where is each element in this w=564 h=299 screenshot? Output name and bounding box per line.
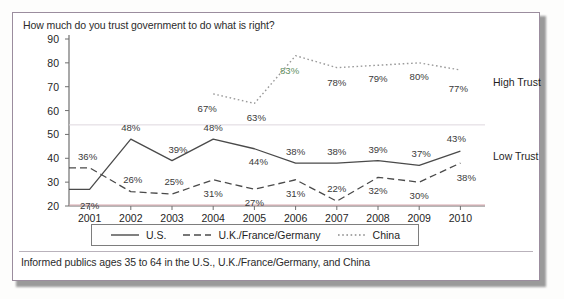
x-axis-tick-label: 2005 <box>234 212 274 224</box>
data-point-label: 44% <box>249 155 268 166</box>
data-point-label: 22% <box>327 183 346 194</box>
y-axis-tick-label: 40 <box>37 152 59 164</box>
data-point-label: 39% <box>368 143 387 154</box>
data-point-label: 25% <box>164 176 183 187</box>
y-axis-tick-label: 50 <box>37 128 59 140</box>
legend-item-label: China <box>373 229 400 241</box>
low-trust-annotation: Low Trust <box>493 150 539 162</box>
data-point-label: 78% <box>327 76 346 87</box>
x-axis-tick-label: 2001 <box>70 212 110 224</box>
data-point-label: 79% <box>368 73 387 84</box>
data-point-label: 48% <box>204 122 223 133</box>
chart-footnote: Informed publics ages 35 to 64 in the U.… <box>21 256 370 268</box>
data-point-label: 30% <box>410 190 429 201</box>
legend-item-label: U.K./France/Germany <box>218 229 320 241</box>
x-axis-tick-label: 2003 <box>152 212 192 224</box>
x-axis-tick-label: 2010 <box>440 212 480 224</box>
y-axis-tick-label: 80 <box>37 57 59 69</box>
legend-line-swatch-dashed <box>182 230 212 240</box>
data-point-label: 27% <box>245 197 264 208</box>
chart-card: How much do you trust government to do w… <box>12 12 540 281</box>
data-point-label: 37% <box>412 148 431 159</box>
data-point-label: 67% <box>198 102 217 113</box>
data-point-label: 27% <box>80 200 99 211</box>
data-point-label: 38% <box>457 172 476 183</box>
data-point-label: 80% <box>410 70 429 81</box>
data-point-label: 26% <box>123 173 142 184</box>
data-point-label: 77% <box>449 83 468 94</box>
x-axis-tick-label: 2008 <box>358 212 398 224</box>
legend-line-swatch-dotted <box>337 230 367 240</box>
chart-legend: U.S.U.K./France/GermanyChina <box>91 224 419 246</box>
data-point-label: 31% <box>286 187 305 198</box>
x-axis-tick-label: 2004 <box>193 212 233 224</box>
data-point-label: 38% <box>286 146 305 157</box>
legend-item-label: U.S. <box>146 229 166 241</box>
y-axis-tick-label: 20 <box>37 200 59 212</box>
data-point-label: 31% <box>204 187 223 198</box>
y-axis-tick-label: 60 <box>37 105 59 117</box>
x-axis-tick-label: 2006 <box>276 212 316 224</box>
high-trust-annotation: High Trust <box>493 76 541 88</box>
legend-line-swatch-solid <box>110 230 140 240</box>
legend-item[interactable]: U.K./France/Germany <box>182 229 320 241</box>
y-axis-tick-label: 30 <box>37 176 59 188</box>
data-point-label: 36% <box>78 150 97 161</box>
x-axis-tick-label: 2009 <box>399 212 439 224</box>
data-point-label: 38% <box>327 146 346 157</box>
data-point-label: 43% <box>447 133 466 144</box>
data-point-label: 63% <box>247 112 266 123</box>
data-point-label: 48% <box>121 122 140 133</box>
y-axis-tick-label: 70 <box>37 81 59 93</box>
legend-item[interactable]: China <box>337 229 400 241</box>
data-point-label: 83% <box>280 64 299 75</box>
data-point-label: 39% <box>168 143 187 154</box>
y-axis-tick-label: 90 <box>37 33 59 45</box>
footnote-divider <box>19 251 533 252</box>
x-axis-tick-label: 2007 <box>317 212 357 224</box>
x-axis-tick-label: 2002 <box>111 212 151 224</box>
legend-item[interactable]: U.S. <box>110 229 166 241</box>
data-point-label: 32% <box>368 185 387 196</box>
